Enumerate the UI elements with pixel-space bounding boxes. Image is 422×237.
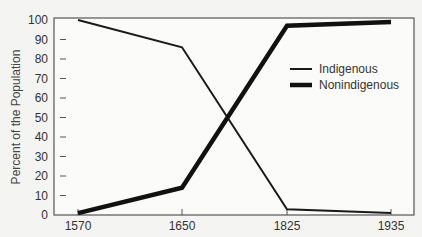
y-tick-label: 60 [35,91,49,105]
y-tick-label: 80 [35,52,49,66]
y-tick-label: 20 [35,169,49,183]
legend-label: Indigenous [319,62,378,76]
plot-frame [54,18,414,215]
y-tick-label: 50 [35,111,49,125]
plot-area [54,18,414,215]
legend-label: Nonindigenous [319,78,399,92]
y-tick-label: 10 [35,189,49,203]
y-axis-label: Percent of the Population [9,50,23,185]
y-tick-label: 90 [35,33,49,47]
x-tick-label: 1935 [378,219,405,233]
x-tick-label: 1650 [169,219,196,233]
y-tick-label: 40 [35,130,49,144]
y-tick-label: 0 [41,208,48,222]
y-tick-label: 70 [35,72,49,86]
x-tick-label: 1570 [65,219,92,233]
y-tick-label: 100 [28,13,48,27]
x-tick-label: 1825 [274,219,301,233]
line-chart: 0102030405060708090100 1570165018251935 … [0,0,422,237]
y-tick-label: 30 [35,150,49,164]
